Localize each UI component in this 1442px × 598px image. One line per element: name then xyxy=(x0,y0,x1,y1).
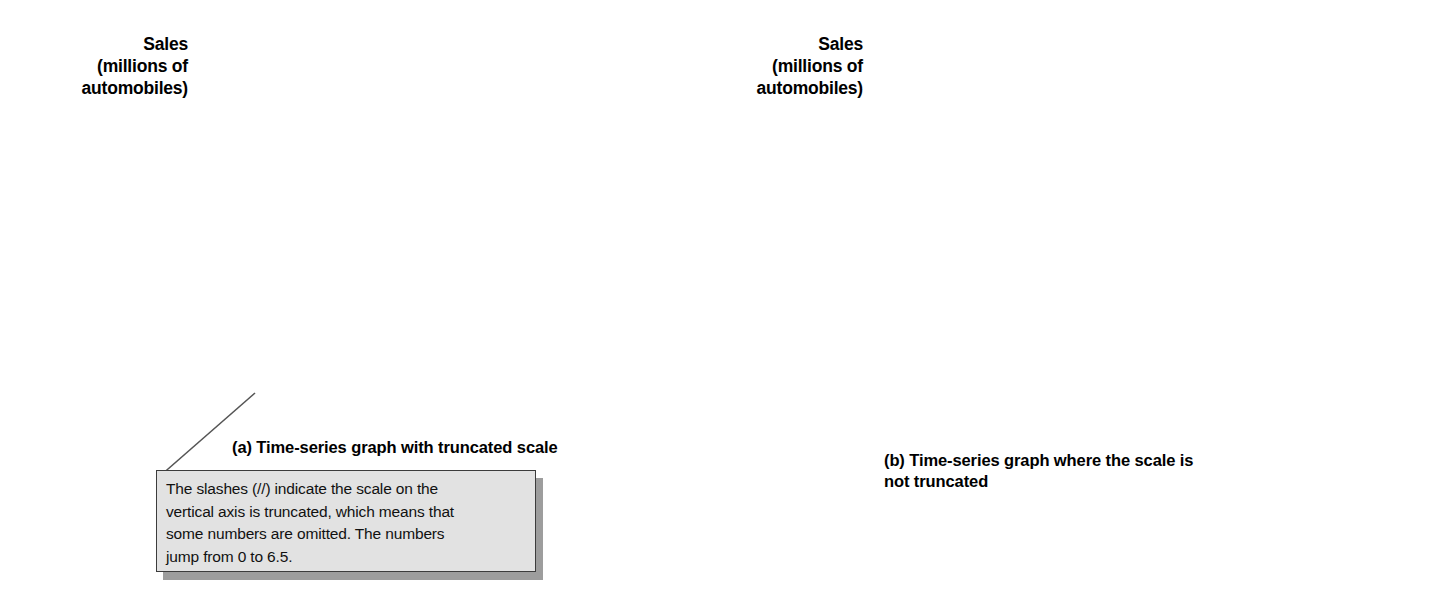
panel-b-axis-title-line1: Sales xyxy=(685,33,863,55)
panel-a-axis-title-line2: (millions of xyxy=(10,55,188,77)
panel-b-caption-line2: not truncated xyxy=(884,471,1324,492)
callout-text-line2: vertical axis is truncated, which means … xyxy=(166,501,525,524)
callout-leader-line xyxy=(150,390,260,480)
figure-root: Sales (millions of automobiles) (a) Time… xyxy=(0,0,1442,598)
panel-b-plot-area xyxy=(892,46,1390,408)
panel-a-axis-title: Sales (millions of automobiles) xyxy=(10,33,188,99)
callout-annotation-box: The slashes (//) indicate the scale on t… xyxy=(156,470,536,572)
panel-b-caption: (b) Time-series graph where the scale is… xyxy=(884,450,1324,492)
callout-text-line1: The slashes (//) indicate the scale on t… xyxy=(166,478,525,501)
callout-text-line3: some numbers are omitted. The numbers xyxy=(166,523,525,546)
panel-b-full-scale-chart: Sales (millions of automobiles) (b) Time… xyxy=(700,0,1442,598)
panel-b-caption-line1: (b) Time-series graph where the scale is xyxy=(884,450,1324,471)
callout-text-line4: jump from 0 to 6.5. xyxy=(166,546,525,569)
panel-a-plot-area xyxy=(225,45,725,425)
panel-b-axis-title-line3: automobiles) xyxy=(685,77,863,99)
panel-b-axis-title-line2: (millions of xyxy=(685,55,863,77)
panel-a-axis-title-line1: Sales xyxy=(10,33,188,55)
panel-a-axis-title-line3: automobiles) xyxy=(10,77,188,99)
panel-a-caption: (a) Time-series graph with truncated sca… xyxy=(232,437,702,458)
panel-b-axis-title: Sales (millions of automobiles) xyxy=(685,33,863,99)
